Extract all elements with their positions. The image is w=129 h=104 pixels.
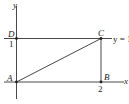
point-a [15,81,18,84]
segment-ac [17,39,102,83]
tick-label-1: 1 [9,39,14,49]
label-b: B [104,72,110,82]
tick-label-2: 2 [98,84,103,94]
coordinate-diagram: y x D 1 A C y = 1 B 2 [0,0,129,104]
label-c: C [98,28,105,38]
point-d [15,37,18,40]
y-axis-label: y [12,0,17,10]
label-d: D [7,29,15,39]
point-b [100,81,103,84]
label-a: A [6,73,13,83]
line-label-y-equals-1: y = 1 [113,34,129,44]
x-axis-label: x [123,76,128,86]
